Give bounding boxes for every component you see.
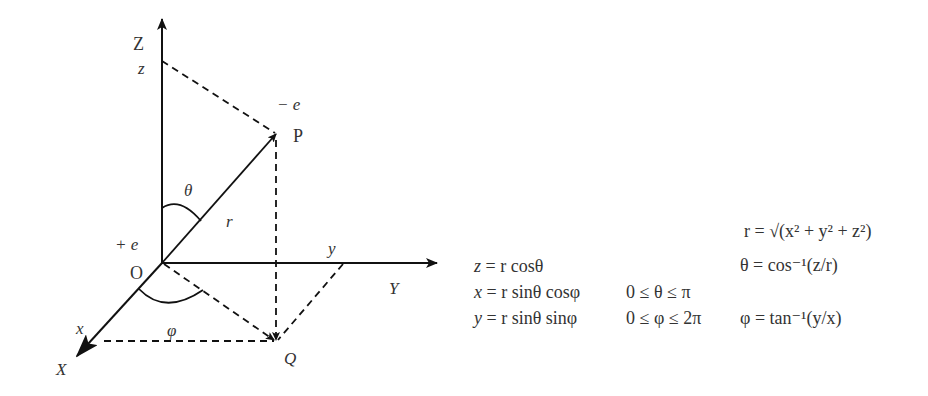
positive-charge-label: + e xyxy=(115,235,139,254)
y-projection-line xyxy=(278,264,343,340)
x-axis xyxy=(77,263,162,356)
formula-x-rhs: r sinθ cosφ xyxy=(501,282,580,302)
x-axis-label: X xyxy=(55,360,67,379)
negative-charge-label: − e xyxy=(277,95,301,114)
radius-label: r xyxy=(226,212,233,231)
formula-z-rhs: r cosθ xyxy=(500,256,543,276)
z-point-label: z xyxy=(137,59,145,78)
point-q-label: Q xyxy=(284,349,296,368)
formula-x-conversion: x = r sinθ cosφ xyxy=(474,283,580,301)
y-axis-label: Y xyxy=(389,279,400,298)
origin-label: O xyxy=(130,263,143,283)
theta-label: θ xyxy=(184,181,192,200)
formula-y-rhs: r sinθ sinφ xyxy=(501,308,577,328)
phi-range: 0 ≤ φ ≤ 2π xyxy=(626,309,701,327)
y-point-label: y xyxy=(326,239,336,258)
formula-x-lhs: x xyxy=(474,282,482,302)
x-point-label: x xyxy=(75,319,84,338)
theta-formula: θ = cos⁻¹(z/r) xyxy=(740,256,838,274)
formula-y-conversion: y = r sinθ sinφ xyxy=(474,309,577,327)
phi-label: φ xyxy=(167,321,176,340)
point-p-label: P xyxy=(293,126,303,146)
z-axis-label: Z xyxy=(133,34,144,54)
theta-range: 0 ≤ θ ≤ π xyxy=(626,283,690,301)
formula-z-lhs: z xyxy=(474,256,481,276)
z-projection-line xyxy=(162,61,275,133)
formula-y-lhs: y xyxy=(474,308,482,328)
phi-arc xyxy=(139,289,203,303)
theta-arc xyxy=(162,204,201,221)
formula-z-conversion: z = r cosθ xyxy=(474,257,543,275)
spherical-coordinates-diagram: Z Y X z y x O P Q − e + e r θ φ xyxy=(0,0,928,396)
phi-formula: φ = tan⁻¹(y/x) xyxy=(740,309,841,327)
radius-vector xyxy=(162,134,276,263)
radius-formula: r = √(x² + y² + z²) xyxy=(744,222,872,240)
